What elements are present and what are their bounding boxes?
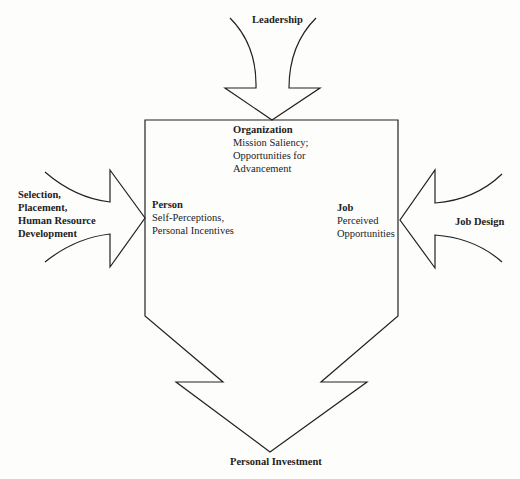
organization-line-2: Opportunities for [233,149,309,162]
selection-label: Selection, Placement, Human Resource Dev… [18,188,96,240]
leadership-arrow [225,18,320,120]
selection-line-1: Selection, [18,188,96,201]
organization-node: Organization Mission Saliency; Opportuni… [233,123,309,175]
job-line-1: Perceived [337,214,395,227]
selection-line-2: Placement, [18,201,96,214]
person-line-2: Personal Incentives [152,224,234,237]
job-line-2: Opportunities [337,227,395,240]
person-line-1: Self-Perceptions, [152,211,234,224]
person-title: Person [152,198,234,211]
person-node: Person Self-Perceptions, Personal Incent… [152,198,234,237]
organization-line-3: Advancement [233,162,309,175]
job-title: Job [337,201,395,214]
job-design-label: Job Design [455,215,504,228]
organization-line-1: Mission Saliency; [233,136,309,149]
selection-line-3: Human Resource [18,214,96,227]
leadership-label: Leadership [252,13,303,26]
selection-line-4: Development [18,227,96,240]
organization-title: Organization [233,123,309,136]
job-node: Job Perceived Opportunities [337,201,395,240]
personal-investment-label: Personal Investment [230,455,322,468]
